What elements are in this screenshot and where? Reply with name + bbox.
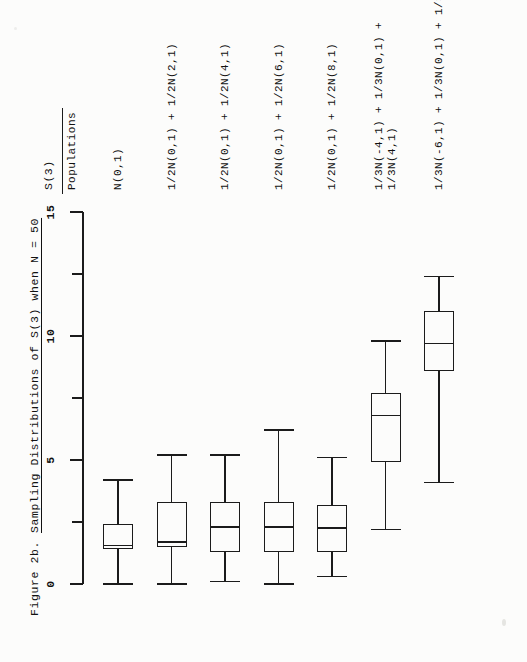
category-label-line: 1/2N(0,1) + 1/2N(2,1): [165, 43, 178, 190]
whisker-high-line: [278, 430, 279, 502]
whisker-high-cap: [424, 276, 454, 278]
whisker-low-cap: [424, 482, 454, 484]
whisker-high-line: [438, 276, 439, 311]
axis-tick: [70, 459, 83, 461]
whisker-low-line: [117, 549, 118, 584]
whisker-low-cap: [210, 581, 240, 583]
whisker-high-cap: [210, 454, 240, 456]
box-iqr: [424, 311, 454, 371]
category-label: N(0,1): [112, 148, 125, 190]
whisker-low-line: [438, 371, 439, 483]
category-label: 1/2N(0,1) + 1/2N(4,1): [219, 43, 232, 190]
whisker-low-cap: [103, 583, 133, 585]
category-label-line: 1/3N(4,1): [386, 22, 399, 190]
boxplot-chart: 051015 S(3) Populations N(0,1)1/2N(0,1) …: [0, 0, 527, 662]
whisker-low-cap: [157, 583, 187, 585]
box-iqr: [371, 393, 401, 462]
whisker-high-cap: [317, 457, 347, 459]
whisker-high-line: [171, 455, 172, 502]
whisker-high-cap: [264, 429, 294, 431]
category-label: 1/2N(0,1) + 1/2N(8,1): [326, 43, 339, 190]
category-label: 1/2N(0,1) + 1/2N(6,1): [272, 43, 285, 190]
whisker-high-line: [385, 341, 386, 393]
scan-speckle: [14, 27, 17, 30]
axis-tick: [72, 273, 83, 275]
median-line: [264, 526, 294, 528]
category-header-rule: [62, 108, 63, 194]
category-label-line: 1/2N(0,1) + 1/2N(4,1): [219, 43, 232, 190]
category-header-label: Populations: [66, 112, 78, 190]
whisker-high-line: [331, 458, 332, 505]
whisker-high-cap: [103, 479, 133, 481]
whisker-high-line: [224, 455, 225, 502]
axis-tick-label: 10: [44, 329, 57, 344]
median-line: [103, 545, 133, 547]
scan-speckle: [502, 619, 506, 626]
whisker-low-line: [385, 463, 386, 530]
axis-tick: [70, 211, 83, 213]
median-line: [210, 526, 240, 528]
median-line: [424, 343, 454, 345]
category-label-line: N(0,1): [112, 148, 125, 190]
axis-tick-label: 15: [44, 205, 57, 220]
whisker-low-line: [224, 552, 225, 582]
value-axis-title: S(3): [42, 160, 55, 190]
median-line: [371, 415, 401, 417]
axis-tick: [72, 521, 83, 523]
category-label-line: 1/3N(-4,1) + 1/3N(0,1) +: [373, 22, 386, 190]
category-label: 1/3N(-4,1) + 1/3N(0,1) +1/3N(4,1): [373, 22, 399, 190]
median-line: [157, 541, 187, 543]
whisker-high-cap: [157, 454, 187, 456]
category-label-line: 1/2N(0,1) + 1/2N(6,1): [272, 43, 285, 190]
whisker-high-cap: [371, 340, 401, 342]
whisker-high-line: [117, 480, 118, 525]
category-label-line: 1/2N(0,1) + 1/2N(8,1): [326, 43, 339, 190]
category-label-line: 1/3N(-6,1) + 1/3N(0,1) + 1/3N(6,1): [433, 0, 446, 190]
axis-tick: [70, 583, 83, 585]
figure-rotated-canvas: Figure 2b.Sampling Distributions of S(3)…: [0, 0, 527, 662]
axis-tick: [70, 335, 83, 337]
median-line: [317, 527, 347, 529]
whisker-low-line: [278, 552, 279, 584]
scanned-page: Figure 2b.Sampling Distributions of S(3)…: [0, 0, 527, 662]
category-label: 1/3N(-6,1) + 1/3N(0,1) + 1/3N(6,1): [433, 0, 446, 190]
axis-tick: [72, 397, 83, 399]
axis-tick-label: 5: [44, 456, 57, 463]
category-label: 1/2N(0,1) + 1/2N(2,1): [165, 43, 178, 190]
whisker-low-cap: [371, 529, 401, 531]
whisker-low-line: [331, 552, 332, 577]
whisker-low-cap: [317, 576, 347, 578]
whisker-low-line: [171, 547, 172, 584]
whisker-low-cap: [264, 583, 294, 585]
axis-tick-label: 0: [44, 580, 57, 587]
